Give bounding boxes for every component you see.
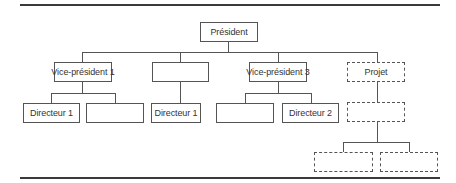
connector (377, 82, 378, 102)
node-projet-child (347, 102, 405, 122)
node-projet-sub-2 (380, 152, 438, 172)
bottom-rule (20, 177, 440, 179)
connector (51, 93, 52, 103)
connector (82, 52, 378, 53)
node-directeur-1-a: Directeur 1 (23, 103, 80, 123)
node-empty-vp1-child (86, 103, 144, 123)
connector (343, 142, 344, 152)
connector (180, 52, 181, 62)
top-rule (20, 4, 440, 6)
connector (115, 93, 116, 103)
node-projet: Projet (347, 62, 405, 82)
connector (228, 42, 229, 52)
node-directeur-1-b: Directeur 1 (151, 103, 201, 123)
connector (180, 82, 181, 103)
node-projet-sub-1 (314, 152, 373, 172)
connector (343, 142, 410, 143)
connector (82, 52, 83, 62)
connector (82, 82, 83, 93)
node-vice-president-1: Vice-président 1 (54, 62, 112, 82)
node-empty-level2 (152, 62, 209, 82)
connector (245, 93, 246, 103)
connector (409, 142, 410, 152)
node-president: Président (200, 22, 258, 42)
connector (245, 93, 312, 94)
connector (278, 82, 279, 93)
connector (311, 93, 312, 103)
connector (51, 93, 116, 94)
connector (278, 52, 279, 62)
connector (377, 122, 378, 142)
node-vice-president-3: Vice-président 3 (249, 62, 307, 82)
connector (377, 52, 378, 62)
node-empty-vp3-child (216, 103, 274, 123)
node-directeur-2: Directeur 2 (282, 103, 339, 123)
